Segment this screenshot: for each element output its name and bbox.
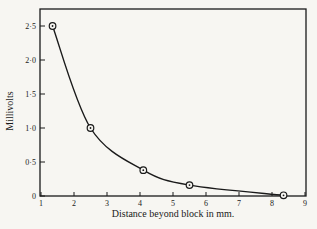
data-point-dot — [189, 184, 191, 186]
x-tick-label: 3 — [105, 199, 109, 208]
x-tick-label: 1 — [39, 199, 43, 208]
y-axis-title: Millivolts — [4, 91, 15, 131]
data-point-dot — [52, 25, 54, 27]
x-axis-title: Distance beyond block in mm. — [112, 208, 234, 219]
data-series — [49, 23, 287, 199]
data-point-dot — [283, 194, 285, 196]
plot-border — [40, 9, 306, 196]
x-tick-label: 6 — [204, 199, 208, 208]
x-tick-label: 2 — [72, 199, 76, 208]
x-tick-label: 4 — [138, 199, 142, 208]
y-tick-label: 2·5 — [25, 22, 36, 31]
data-point-dot — [142, 169, 144, 171]
x-tick-label: 7 — [237, 199, 241, 208]
chart: 123456789 00·51·01·52·02·5 Distance beyo… — [0, 0, 317, 229]
y-tick-label: 1·0 — [25, 124, 36, 133]
x-tick-label: 5 — [171, 199, 175, 208]
plot-frame — [40, 9, 306, 196]
y-tick-label: 1·5 — [25, 90, 36, 99]
data-curve — [53, 26, 284, 195]
y-tick-label: 0 — [32, 192, 36, 201]
y-axis: 00·51·01·52·02·5 — [25, 22, 45, 201]
y-tick-label: 2·0 — [25, 56, 36, 65]
x-tick-label: 8 — [270, 199, 274, 208]
data-point-dot — [90, 127, 92, 129]
x-tick-label: 9 — [303, 199, 307, 208]
y-tick-label: 0·5 — [25, 158, 36, 167]
